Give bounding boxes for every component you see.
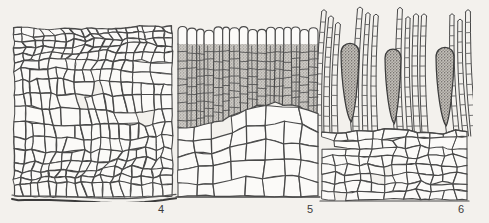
illustration-plate: 4 5 6	[0, 0, 489, 223]
plate-artwork	[0, 0, 489, 223]
figure-label-6: 6	[458, 203, 465, 215]
figure-label-5: 5	[307, 203, 314, 215]
panel-5-figure	[176, 27, 320, 198]
figure-label-4: 4	[158, 203, 165, 215]
